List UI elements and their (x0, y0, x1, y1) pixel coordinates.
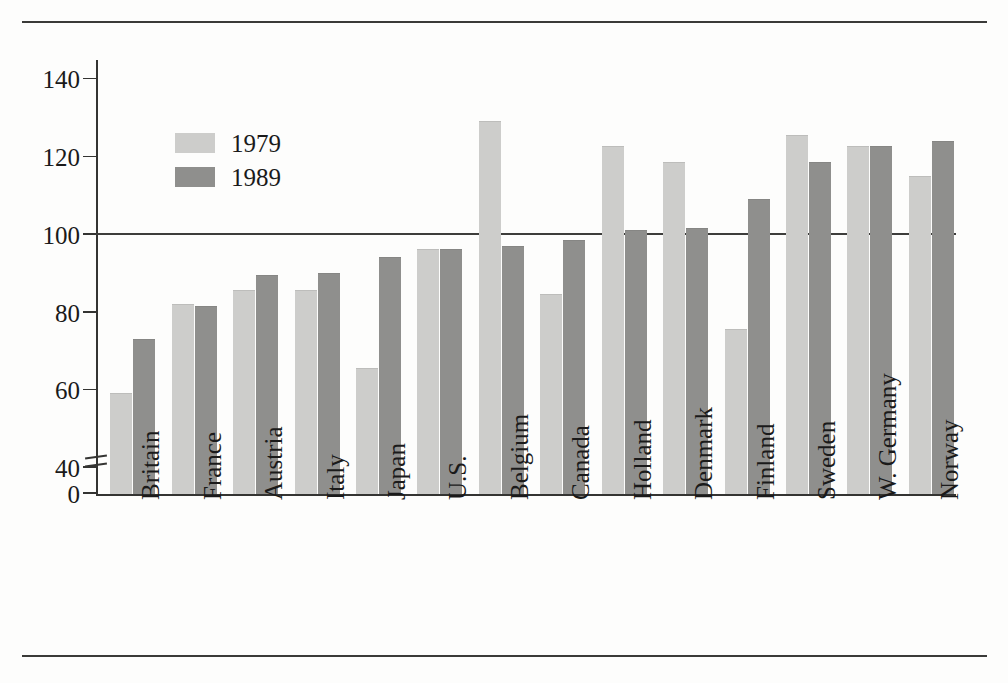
legend-label-1989: 1989 (231, 165, 281, 190)
figure-rule-bottom (22, 655, 987, 657)
bar-austria-1979 (233, 290, 255, 494)
bar-italy-1979 (295, 290, 317, 494)
y-tick-140 (83, 78, 96, 80)
bar-group (110, 60, 155, 494)
bar-group (356, 60, 401, 494)
y-tick-60 (83, 389, 96, 391)
y-tick-label-120: 120 (43, 145, 81, 170)
bar-finland-1979 (725, 329, 747, 494)
y-tick-label-40: 40 (55, 456, 80, 481)
bar-belgium-1979 (479, 121, 501, 494)
bar-u-s--1979 (417, 249, 439, 494)
x-label-canada: Canada (568, 425, 593, 500)
y-tick-0 (83, 492, 96, 494)
bar-denmark-1979 (663, 162, 685, 494)
bar-sweden-1979 (786, 135, 808, 494)
x-label-denmark: Denmark (691, 407, 716, 500)
y-tick-80 (83, 311, 96, 313)
y-tick-label-100: 100 (43, 223, 81, 248)
x-label-japan: Japan (384, 443, 409, 500)
y-tick-label-0: 0 (68, 482, 81, 507)
x-label-france: France (200, 432, 225, 500)
y-tick-label-60: 60 (55, 378, 80, 403)
x-label-britain: Britain (138, 431, 163, 500)
chart-legend: 1979 1989 (175, 126, 355, 194)
y-tick-label-80: 80 (55, 301, 80, 326)
x-label-sweden: Sweden (814, 421, 839, 500)
y-axis-tick-labels: 0406080100120140 (0, 60, 80, 500)
bar-britain-1979 (110, 393, 132, 494)
y-tick-120 (83, 156, 96, 158)
bar-norway-1979 (909, 176, 931, 494)
x-label-w-germany: W. Germany (875, 373, 900, 500)
legend-swatch-1989 (175, 167, 215, 187)
x-label-u-s-: U.S. (445, 456, 470, 500)
y-tick-100 (83, 233, 96, 235)
legend-swatch-1979 (175, 133, 215, 153)
legend-label-1979: 1979 (231, 131, 281, 156)
figure-rule-top (22, 21, 987, 23)
x-label-norway: Norway (937, 419, 962, 500)
x-label-finland: Finland (753, 424, 778, 500)
figure-container: 0406080100120140 BritainFranceAustriaIta… (0, 0, 1008, 683)
bar-w-germany-1979 (847, 146, 869, 494)
x-axis-category-labels: BritainFranceAustriaItalyJapanU.S.Belgiu… (96, 500, 956, 640)
x-label-belgium: Belgium (507, 414, 532, 500)
bar-japan-1979 (356, 368, 378, 494)
legend-item-1989: 1989 (175, 160, 355, 194)
y-tick-label-140: 140 (43, 67, 81, 92)
legend-item-1979: 1979 (175, 126, 355, 160)
bar-canada-1979 (540, 294, 562, 494)
bar-france-1979 (172, 304, 194, 494)
x-label-holland: Holland (630, 419, 655, 500)
x-label-austria: Austria (261, 426, 286, 500)
bar-group (417, 60, 462, 494)
bar-holland-1979 (602, 146, 624, 494)
x-label-italy: Italy (323, 454, 348, 500)
